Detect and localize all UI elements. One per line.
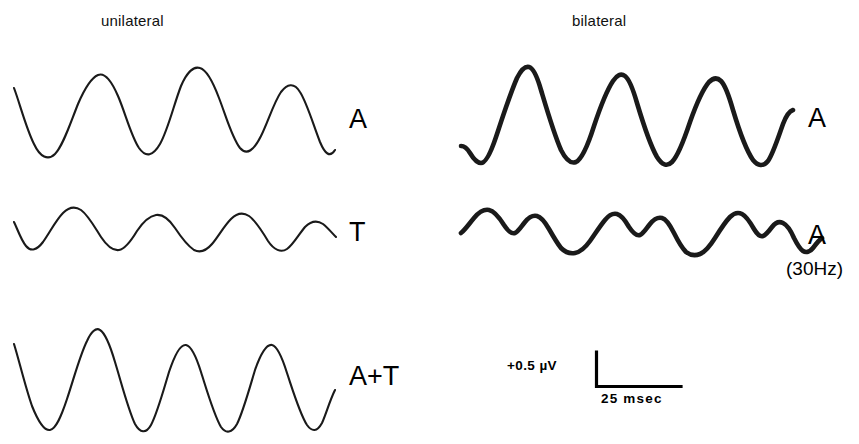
trace-label-bilateral-a-30hz: A	[808, 222, 826, 249]
trace-label-unilateral-t: T	[349, 219, 366, 246]
trace-bilateral-a-30hz	[461, 210, 822, 255]
scale-bar-voltage-label: +0.5 µV	[507, 359, 557, 373]
trace-unilateral-a	[14, 68, 335, 158]
scale-bar-time-label: 25 msec	[601, 392, 663, 406]
trace-label-unilateral-a: A	[349, 106, 367, 133]
waveform-traces-canvas	[0, 0, 859, 444]
scale-bar: +0.5 µV 25 msec	[505, 348, 720, 418]
trace-label-unilateral-a-plus-t: A+T	[349, 363, 399, 390]
trace-bilateral-a	[461, 67, 793, 165]
scale-bar-corner-path	[597, 352, 682, 387]
trace-label-bilateral-a: A	[808, 105, 826, 132]
waveform-figure: unilateral bilateral A T A+T A A (30Hz) …	[0, 0, 859, 444]
trace-unilateral-t	[14, 208, 336, 252]
trace-unilateral-a-plus-t	[14, 329, 335, 431]
trace-sublabel-bilateral-30hz: (30Hz)	[786, 259, 843, 278]
